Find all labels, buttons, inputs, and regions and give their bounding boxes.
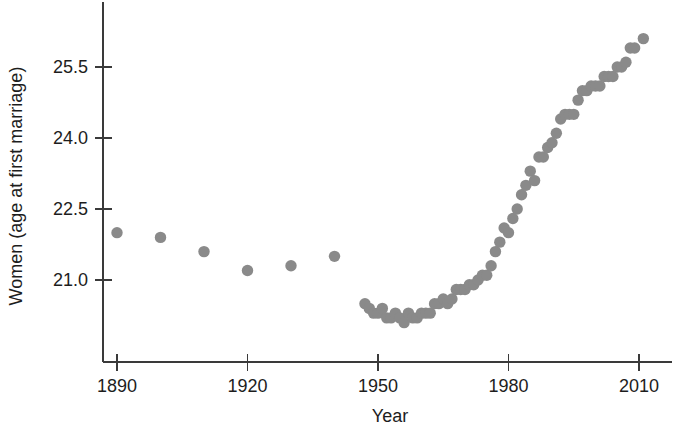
data-point xyxy=(512,203,523,214)
x-tick-label: 1980 xyxy=(488,376,528,396)
x-axis-ticks: 18901920195019802010 xyxy=(97,354,659,396)
data-point xyxy=(242,265,253,276)
x-tick-label: 1920 xyxy=(227,376,267,396)
data-point xyxy=(485,260,496,271)
data-point xyxy=(503,227,514,238)
data-point xyxy=(629,42,640,53)
y-tick-label: 22.5 xyxy=(53,199,88,219)
data-point xyxy=(111,227,122,238)
data-point xyxy=(285,260,296,271)
x-tick-label: 1890 xyxy=(97,376,137,396)
data-point xyxy=(638,33,649,44)
data-point xyxy=(620,57,631,68)
plot-area: 21.022.524.025.5 18901920195019802010 Ye… xyxy=(0,0,682,434)
x-tick-label: 1950 xyxy=(358,376,398,396)
y-tick-label: 21.0 xyxy=(53,270,88,290)
data-point xyxy=(568,109,579,120)
data-point xyxy=(155,232,166,243)
data-points-group xyxy=(111,33,649,328)
y-axis-title: Women (age at first marriage) xyxy=(6,67,26,306)
data-point xyxy=(329,251,340,262)
x-tick-label: 2010 xyxy=(619,376,659,396)
y-tick-label: 25.5 xyxy=(53,57,88,77)
y-tick-label: 24.0 xyxy=(53,128,88,148)
data-point xyxy=(529,175,540,186)
data-point xyxy=(494,236,505,247)
x-axis-title: Year xyxy=(372,406,408,426)
scatter-chart: 21.022.524.025.5 18901920195019802010 Ye… xyxy=(0,0,682,434)
data-point xyxy=(551,128,562,139)
data-point xyxy=(198,246,209,257)
